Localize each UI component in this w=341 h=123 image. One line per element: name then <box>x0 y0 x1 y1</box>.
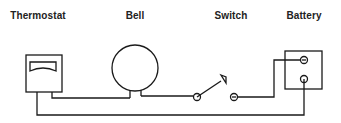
bell-icon <box>112 45 158 98</box>
wires <box>37 60 304 115</box>
circuit-diagram <box>0 0 341 123</box>
thermostat-icon <box>26 55 62 92</box>
switch-icon <box>194 75 238 101</box>
